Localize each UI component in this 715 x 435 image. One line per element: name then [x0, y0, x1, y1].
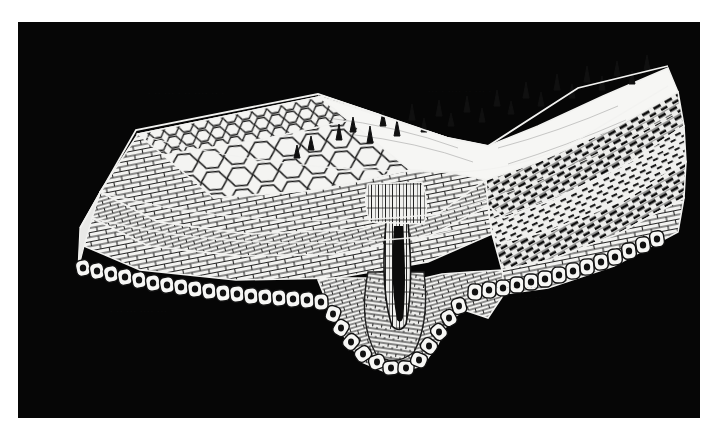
page-margin-right: [700, 0, 715, 435]
scanned-page: · ·· ··· · ·· ···· ·· · ··· · ···· ·· ··…: [0, 0, 715, 435]
page-margin-bottom: [0, 418, 715, 435]
histology-figure: [18, 22, 700, 418]
histology-plate: · ·· ··· · ·· ···· ·· · ··· · ···· ·· ··…: [18, 22, 700, 418]
